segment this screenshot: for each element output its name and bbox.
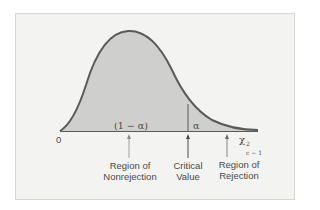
rejection-line1: Region of [214, 159, 264, 170]
nonrejection-arrow [127, 134, 131, 158]
x-axis-symbol: χ2c − 1 [239, 134, 259, 145]
nonrejection-line1: Region of [95, 160, 165, 171]
origin-label: 0 [56, 134, 61, 145]
nonrejection-line2: Nonrejection [95, 171, 165, 182]
chi-symbol: χ [239, 134, 245, 145]
critical-line1: Critical [168, 160, 208, 171]
rejection-area-label: α [193, 120, 199, 131]
nonrejection-region-label: Region of Nonrejection [95, 160, 165, 182]
rejection-arrow [225, 134, 229, 157]
area-under-curve [60, 31, 258, 131]
rejection-line2: Rejection [214, 170, 264, 181]
critical-value-arrow [186, 134, 190, 158]
critical-line2: Value [168, 171, 208, 182]
critical-value-label: Critical Value [168, 160, 208, 182]
rejection-region-label: Region of Rejection [214, 159, 264, 181]
x-subscript: c − 1 [246, 147, 262, 158]
nonrejection-area-label: (1 − α) [114, 120, 148, 131]
